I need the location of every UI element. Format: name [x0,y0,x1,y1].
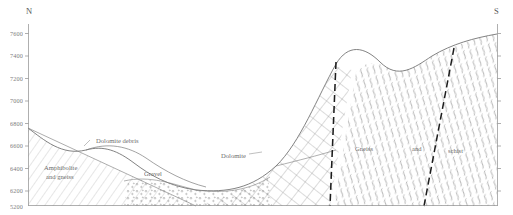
axis-label-6800: 6800 [0,120,23,127]
axis-label-6200: 6200 [0,187,23,194]
unit-label-amphibolite-line2: and gneiss [46,172,74,181]
leader-dolomite [249,152,262,154]
compass-north: N [26,6,32,16]
axis-label-7400: 7400 [0,52,23,59]
unit-gneiss-schist [334,32,500,206]
geologic-cross-section-figure: N S 7600 7400 7200 7000 6800 6600 6400 6… [0,0,513,215]
axis-label-6600: 6600 [0,142,23,149]
axis-ticks-left [25,34,29,192]
unit-label-gravel: Gravel [144,170,162,179]
unit-label-and: and [412,145,422,154]
unit-label-dolomite: Dolomite [221,152,246,161]
cross-section-drawing [0,0,513,215]
axis-label-bottom: 5200 [0,203,23,210]
unit-gravel [124,178,272,206]
leader-dolomite-debris [84,140,90,146]
unit-label-gneiss: Gneiss [355,145,373,154]
compass-south: S [494,6,499,16]
unit-label-dolomite-debris: Dolomite debris [96,137,139,146]
axis-label-7600: 7600 [0,30,23,37]
unit-label-amphibolite-line1: Amphibolite [44,163,77,172]
axis-label-7200: 7200 [0,75,23,82]
unit-dolomite [196,66,352,206]
unit-label-schist: schist [448,147,463,156]
axis-ticks-right [498,34,502,192]
axis-label-6400: 6400 [0,165,23,172]
axis-label-7000: 7000 [0,97,23,104]
